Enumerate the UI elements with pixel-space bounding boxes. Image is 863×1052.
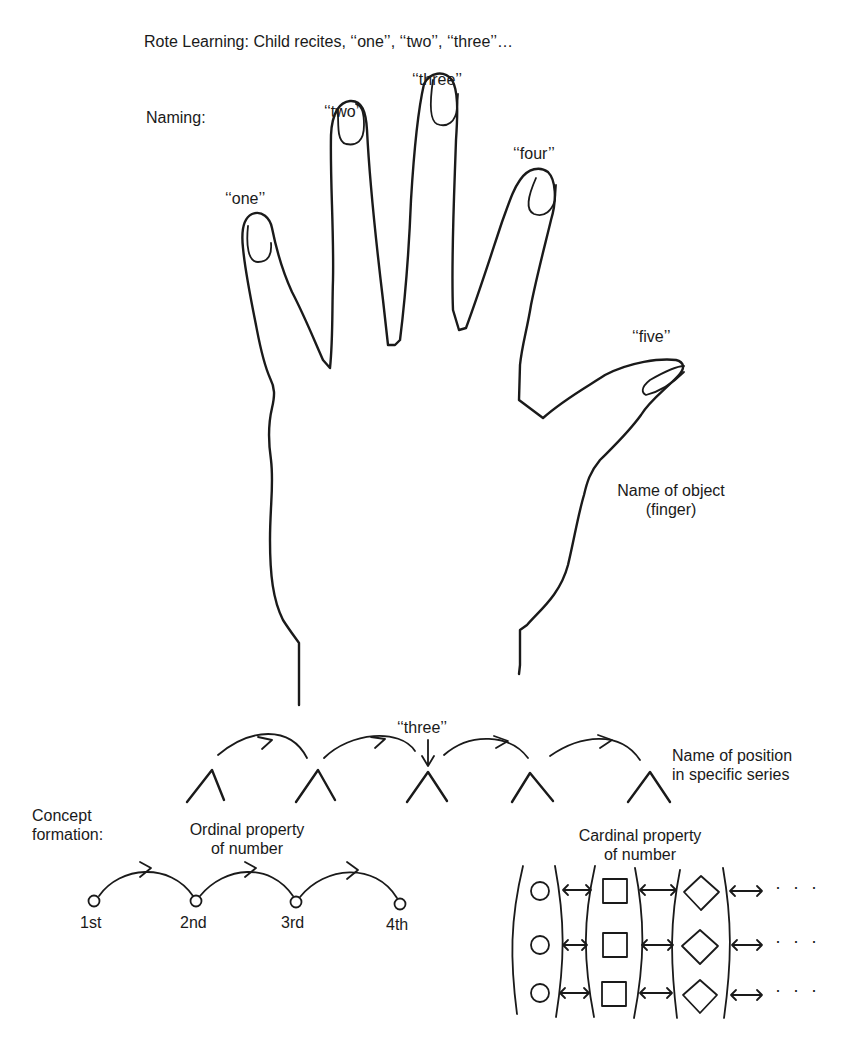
ordinal-label-3rd: 3rd [281, 913, 304, 932]
set-diamond-3 [683, 980, 717, 1013]
ordinal-caption: Ordinal property of number [172, 820, 322, 858]
set-square-2 [603, 933, 627, 957]
finger-label-five: ‘‘five’’ [632, 327, 671, 346]
ordinal-node-2nd [191, 896, 202, 907]
finger-label-four: ‘‘four’’ [513, 144, 555, 163]
position-node-5 [628, 772, 670, 802]
finger-label-one: ‘‘one’’ [225, 189, 265, 208]
set-diamond-1 [684, 876, 719, 910]
name-of-object-caption: Name of object (finger) [596, 481, 746, 519]
cardinal-caption: Cardinal property of number [565, 826, 715, 864]
ordinal-label-2nd: 2nd [180, 913, 207, 932]
diagram-canvas [0, 0, 863, 1052]
rote-learning-caption: Rote Learning: Child recites, ‘‘one’’, ‘… [144, 32, 513, 51]
naming-label: Naming: [146, 108, 206, 127]
position-pointer-label: ‘‘three’’ [397, 718, 447, 737]
ordinal-node-1st [89, 896, 100, 907]
continuation-dots-row-3: ··· [775, 980, 829, 1001]
continuation-dots-row-1: ··· [775, 877, 829, 898]
hand-outline [242, 74, 684, 705]
finger-label-three: ‘‘three’’ [412, 70, 462, 89]
fingernail-index [247, 226, 271, 262]
position-node-3 [407, 772, 447, 802]
set-circle-1 [531, 882, 549, 900]
fingernail-little [528, 178, 556, 215]
set-square-1 [603, 879, 627, 903]
cardinal-sets [512, 866, 762, 1018]
finger-label-two: ‘‘two’’ [324, 102, 363, 121]
position-node-4 [512, 773, 553, 802]
ordinal-node-4th [395, 899, 406, 910]
set-square-3 [602, 982, 626, 1006]
position-node-1 [187, 770, 224, 802]
ordinal-node-3rd [291, 897, 302, 908]
ordinal-label-1st: 1st [80, 913, 101, 932]
set-diamond-2 [682, 930, 718, 964]
pointer-arrow [422, 740, 434, 766]
position-series-caption: Name of position in specific series [672, 746, 792, 784]
set-circle-3 [531, 984, 549, 1002]
set-circle-2 [531, 936, 549, 954]
position-series [187, 734, 670, 802]
concept-formation-label: Concept formation: [32, 806, 103, 844]
ordinal-chain [89, 862, 406, 910]
position-node-2 [296, 770, 335, 802]
ordinal-label-4th: 4th [386, 915, 408, 934]
continuation-dots-row-2: ··· [775, 931, 829, 952]
hand-contour [242, 74, 683, 705]
